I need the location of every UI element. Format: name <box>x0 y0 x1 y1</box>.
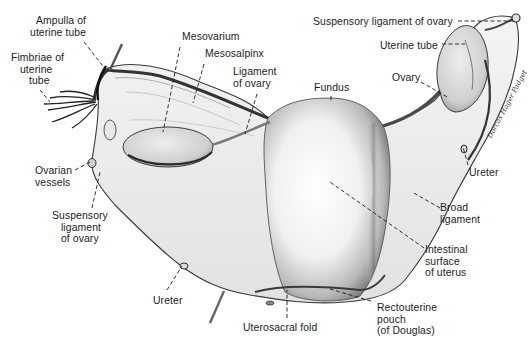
label-fundus: Fundus <box>314 82 349 94</box>
label-fimbriae: Fimbriae of uterine tube <box>11 52 64 87</box>
label-uterosacral-fold: Uterosacral fold <box>243 322 317 334</box>
label-uterine-tube: Uterine tube <box>380 40 438 52</box>
left-ovary <box>123 127 213 167</box>
label-rectouterine-pouch: Rectouterine pouch (of Douglas) <box>377 302 437 337</box>
anatomy-figure: Ampulla of uterine tube Fimbriae of uter… <box>0 0 529 343</box>
probe-bottom <box>210 291 224 323</box>
ovarian-vessels <box>88 159 96 168</box>
label-ovary: Ovary <box>392 72 420 84</box>
label-intestinal-surface: Intestinal surface of uterus <box>425 244 468 279</box>
leader-line-ovarian_vessels <box>75 162 90 170</box>
label-ampulla: Ampulla of uterine tube <box>30 15 86 38</box>
label-ligament-of-ovary: Ligament of ovary <box>233 66 277 89</box>
label-mesovarium: Mesovarium <box>182 31 240 43</box>
uterus-illustration <box>0 0 529 343</box>
leader-line-fimbriae <box>40 90 50 102</box>
label-suspensory-ligament-top: Suspensory ligament of ovary <box>313 16 453 28</box>
label-suspensory-ligament-left: Suspensory ligament of ovary <box>52 210 108 245</box>
label-ureter-right: Ureter <box>469 167 498 179</box>
label-mesosalpinx: Mesosalpinx <box>205 48 264 60</box>
label-ureter-bottom: Ureter <box>153 295 182 307</box>
leader-line-ampulla <box>84 42 106 70</box>
leader-line-ureter_bottom <box>167 266 182 290</box>
fimbriae <box>44 91 97 128</box>
label-ovarian-vessels: Ovarian vessels <box>35 165 72 188</box>
label-broad-ligament: Broad ligament <box>440 202 480 225</box>
